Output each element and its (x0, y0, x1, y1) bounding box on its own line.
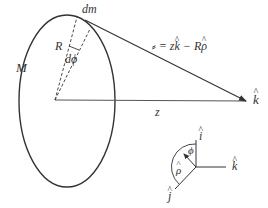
dphi-tick (69, 46, 79, 50)
label-dm: dm (82, 3, 97, 15)
equation-rho-hat: ρ (201, 40, 207, 52)
label-mass: M (16, 61, 27, 74)
rho-hat-glyph: ρ (176, 165, 181, 176)
label-k-hat-main: k (253, 93, 259, 106)
label-axis-rho: ρ (176, 165, 181, 176)
equation-prefix: = z (159, 39, 175, 53)
j-hat-glyph: j (168, 190, 171, 202)
separation-equation: ⸗ = zk − Rρ (152, 40, 207, 52)
label-radius: R (55, 40, 62, 52)
k-hat-glyph-frame: k (232, 160, 237, 172)
ring-ellipse (19, 15, 115, 187)
equation-mid: − R (180, 39, 201, 53)
script-r-icon: ⸗ (152, 40, 156, 52)
equation-k-hat: k (174, 40, 179, 52)
z-axis-line (55, 100, 246, 101)
label-axis-i: i (199, 130, 202, 142)
label-z: z (155, 106, 160, 118)
label-axis-k: k (232, 160, 237, 172)
k-hat-glyph: k (253, 93, 259, 106)
ring-field-diagram (0, 0, 268, 208)
label-dphi: dϕ (65, 53, 77, 65)
label-axis-j: j (168, 190, 171, 202)
label-axis-phi: ϕ (188, 145, 194, 156)
i-hat-glyph: i (199, 130, 202, 142)
